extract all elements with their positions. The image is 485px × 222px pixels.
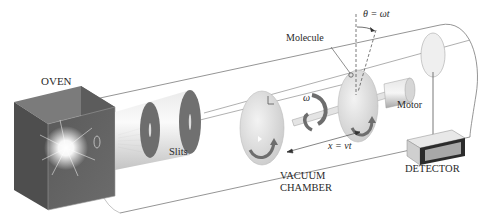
- rotating-disk-2: [338, 70, 378, 142]
- slit-1-opening: [149, 123, 151, 137]
- oven: [14, 86, 115, 210]
- velocity-selector-diagram: OVEN Slits Molecule θ = ωt ω Motor x = v…: [0, 0, 485, 222]
- vacuum-chamber-label-line1: VACUUM: [280, 171, 325, 182]
- rotating-disk-1: [240, 91, 284, 165]
- motor-label: Motor: [397, 100, 422, 110]
- apparatus-illustration: [0, 0, 485, 222]
- slits-label: Slits: [169, 147, 188, 158]
- theta-equation-label: θ = ωt: [363, 9, 390, 19]
- vacuum-chamber-label-line2: CHAMBER: [280, 183, 332, 194]
- detector-label: DETECTOR: [405, 164, 460, 175]
- molecule-label: Molecule: [286, 33, 324, 43]
- slit-2-opening: [189, 114, 191, 130]
- distance-equation-label: x = vt: [328, 141, 351, 151]
- detector: [407, 130, 465, 165]
- detector-aperture: [421, 33, 445, 77]
- oven-label: OVEN: [41, 76, 72, 87]
- omega-label: ω: [303, 93, 310, 103]
- molecule-leader-line: [331, 47, 350, 73]
- slits-assembly: [115, 90, 201, 170]
